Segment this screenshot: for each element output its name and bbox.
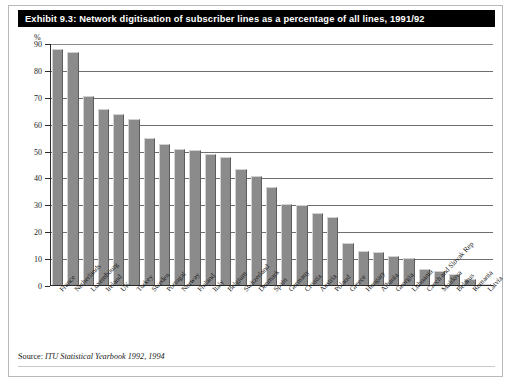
x-axis-category-labels: FranceNetherlandsLuxembourgIrelandUKTurk…: [50, 288, 493, 338]
plot-region: [50, 44, 493, 286]
bar: [159, 144, 170, 287]
bar: [67, 52, 78, 286]
y-tick-label: 90: [18, 40, 42, 49]
bar: [205, 154, 216, 286]
bar: [281, 204, 292, 286]
source-label: Source:: [18, 352, 43, 361]
y-tick-label: 80: [18, 66, 42, 75]
bar: [113, 114, 124, 286]
bar: [128, 119, 139, 286]
bar: [144, 138, 155, 286]
y-tick-mark: [45, 286, 50, 287]
y-tick-label: 30: [18, 201, 42, 210]
y-tick-label: 0: [18, 282, 42, 291]
bar-series: [50, 44, 493, 286]
source-text: ITU Statistical Yearbook 1992, 1994: [45, 352, 165, 361]
y-tick-label: 20: [18, 228, 42, 237]
source-note: Source: ITU Statistical Yearbook 1992, 1…: [18, 352, 495, 361]
y-tick-label: 40: [18, 174, 42, 183]
bar: [235, 169, 246, 286]
bar: [189, 150, 200, 286]
exhibit-title-bar: Exhibit 9.3: Network digitisation of sub…: [18, 10, 495, 27]
bar: [220, 157, 231, 286]
y-tick-label: 70: [18, 93, 42, 102]
bottom-divider: [18, 366, 495, 367]
y-tick-label: 10: [18, 255, 42, 264]
page-title: Exhibit 9.3: Network digitisation of sub…: [25, 14, 425, 24]
bar: [98, 109, 109, 286]
exhibit-page: Exhibit 9.3: Network digitisation of sub…: [0, 0, 511, 384]
bar: [174, 149, 185, 286]
y-tick-label: 50: [18, 147, 42, 156]
bar: [83, 96, 94, 286]
bar: [52, 49, 63, 286]
y-tick-label: 60: [18, 120, 42, 129]
chart-area: % 0102030405060708090 FranceNetherlandsL…: [18, 33, 495, 338]
